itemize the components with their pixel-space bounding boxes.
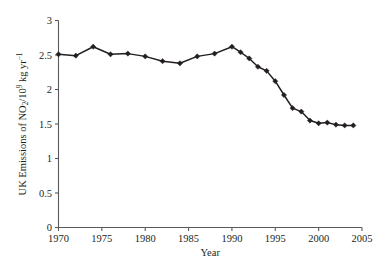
data-point-marker xyxy=(212,51,217,56)
y-tick-label: 2 xyxy=(47,84,52,95)
data-point-marker xyxy=(325,120,330,125)
x-tick-label: 1980 xyxy=(135,233,156,244)
x-tick-label: 2005 xyxy=(352,233,373,244)
chart-figure: 00.511.522.53 19701975198019851990199520… xyxy=(0,0,375,269)
data-point-marker xyxy=(195,54,200,59)
y-tick-label: 3 xyxy=(47,15,52,26)
y-axis-title: UK Emissions of NO2/109 kg yr−1 xyxy=(16,52,30,195)
y-tick-label: 1 xyxy=(47,153,52,164)
data-point-marker xyxy=(91,44,96,49)
data-point-marker xyxy=(342,123,347,128)
x-axis-tick-labels: 19701975198019851990199520002005 xyxy=(48,233,373,244)
data-point-marker xyxy=(351,123,356,128)
x-tick-label: 1975 xyxy=(91,233,112,244)
data-point-marker xyxy=(316,121,321,126)
x-tick-label: 1970 xyxy=(48,233,69,244)
data-point-marker xyxy=(108,52,113,57)
line-chart: 00.511.522.53 19701975198019851990199520… xyxy=(0,0,375,269)
x-tick-label: 1995 xyxy=(265,233,286,244)
data-point-marker xyxy=(143,54,148,59)
x-tick-label: 2000 xyxy=(308,233,329,244)
y-tick-label: 1.5 xyxy=(39,119,52,130)
x-tick-label: 1985 xyxy=(178,233,199,244)
data-point-marker xyxy=(177,61,182,66)
data-point-marker xyxy=(56,52,61,57)
x-tick-label: 1990 xyxy=(221,233,242,244)
y-tick-label: 0.5 xyxy=(39,188,52,199)
y-tick-label: 0 xyxy=(47,222,52,233)
y-axis-tick-labels: 00.511.522.53 xyxy=(39,15,52,233)
data-point-marker xyxy=(333,122,338,127)
data-point-marker xyxy=(73,53,78,58)
data-series-markers xyxy=(56,44,356,128)
data-point-marker xyxy=(160,59,165,64)
y-tick-label: 2.5 xyxy=(39,50,52,61)
x-axis-title: Year xyxy=(201,247,221,258)
data-point-marker xyxy=(125,51,130,56)
data-series-line xyxy=(59,47,354,126)
